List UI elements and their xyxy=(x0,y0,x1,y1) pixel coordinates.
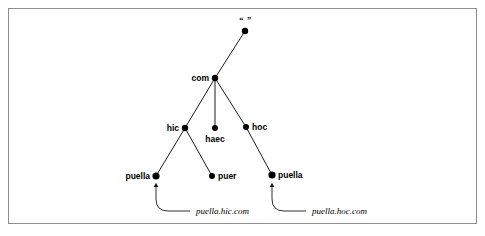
tree-edge-com-to-hic xyxy=(185,78,215,128)
tree-node-label-puella_hic: puella xyxy=(125,172,150,181)
annotation-leader-line-puella_hic xyxy=(156,185,190,211)
tree-node-dot-puella_hic xyxy=(152,172,159,179)
annotation-leader-line-puella_hoc xyxy=(272,185,306,211)
tree-node-dot-com xyxy=(212,75,218,81)
tree-node-dot-hic xyxy=(182,125,188,131)
tree-node-dot-hoc xyxy=(243,124,249,130)
tree-node-dot-puer_hic xyxy=(209,173,215,179)
tree-diagram-svg xyxy=(0,0,485,236)
tree-edge-layer xyxy=(156,31,272,176)
tree-edge-root-to-com xyxy=(215,31,245,78)
tree-edge-hoc-to-puella_hoc xyxy=(246,127,272,175)
tree-node-label-root: “ ” xyxy=(239,16,252,25)
tree-node-layer xyxy=(152,28,275,180)
annotation-label-puella_hic: puella.hic.com xyxy=(196,207,249,216)
tree-node-label-haec: haec xyxy=(205,135,224,144)
tree-node-label-hic: hic xyxy=(167,124,179,133)
tree-node-label-puella_hoc: puella xyxy=(278,171,303,180)
tree-node-label-hoc: hoc xyxy=(252,123,267,132)
tree-edge-com-to-hoc xyxy=(215,78,246,127)
annotation-label-puella_hoc: puella.hoc.com xyxy=(312,207,367,216)
tree-node-dot-haec xyxy=(212,125,218,131)
tree-edge-hic-to-puella_hic xyxy=(156,128,185,176)
tree-node-label-com: com xyxy=(192,74,209,83)
figure-root: “ ”comhichaechocpuellapuerpuellapuella.h… xyxy=(0,0,485,236)
tree-node-dot-puella_hoc xyxy=(268,171,275,178)
tree-node-label-puer_hic: puer xyxy=(218,172,236,181)
tree-node-dot-root xyxy=(242,28,248,34)
